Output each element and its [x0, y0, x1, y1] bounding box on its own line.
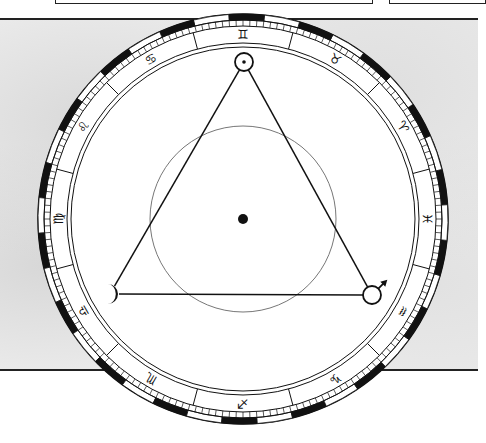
sign-label-virgo: ♍︎	[51, 213, 66, 225]
sign-label-pisces: ♓︎	[420, 213, 435, 225]
sun-icon	[235, 53, 253, 71]
sign-label-sagittarius: ♐︎	[237, 396, 249, 411]
sign-label-gemini: ♊︎	[237, 27, 249, 42]
aspect-line-moon-mars	[119, 294, 363, 295]
center-dot	[238, 214, 248, 224]
